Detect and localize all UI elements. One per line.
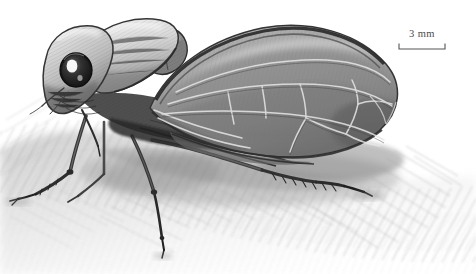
scale-bar-rule xyxy=(398,43,446,50)
scale-bar: 3 mm xyxy=(396,28,448,56)
scale-bar-label: 3 mm xyxy=(396,28,448,40)
figure-panel: 3 mm xyxy=(0,0,476,274)
